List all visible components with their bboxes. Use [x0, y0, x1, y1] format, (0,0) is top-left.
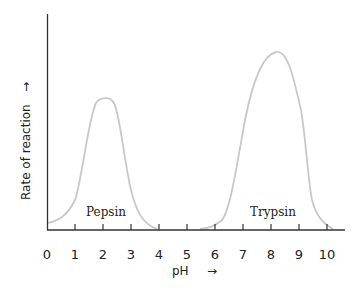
tick-label: 10 — [319, 247, 336, 262]
y-axis-title: Rate of reaction — [19, 104, 33, 200]
tick-label: 4 — [155, 247, 163, 262]
trypsin-curve — [200, 52, 333, 229]
tick-label: 8 — [267, 247, 275, 262]
pepsin-label: Pepsin — [86, 205, 126, 219]
tick-label: 3 — [127, 247, 135, 262]
x-axis-title: pH — [172, 264, 189, 278]
chart-canvas: 0 1 2 3 4 5 6 7 8 9 10 pH → Rate of reac… — [0, 0, 363, 301]
x-axis-arrow-icon: → — [207, 264, 217, 278]
tick-label: 7 — [239, 247, 247, 262]
tick-label: 9 — [295, 247, 303, 262]
trypsin-label: Trypsin — [250, 205, 296, 219]
x-tick-labels: 0 1 2 3 4 5 6 7 8 9 10 — [43, 247, 335, 262]
tick-label: 0 — [43, 247, 51, 262]
tick-label: 6 — [211, 247, 219, 262]
y-axis-arrow-icon: → — [19, 82, 33, 92]
tick-label: 2 — [99, 247, 107, 262]
tick-label: 5 — [183, 247, 191, 262]
tick-label: 1 — [71, 247, 79, 262]
